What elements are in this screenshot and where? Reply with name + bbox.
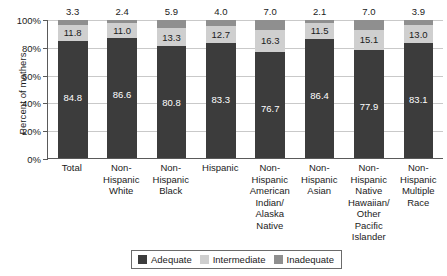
x-axis-label-4: Hispanic [196, 162, 246, 243]
y-axis-tick-label: 100% [17, 15, 41, 26]
x-axis-labels: TotalNon- Hispanic WhiteNon- Hispanic Bl… [47, 162, 443, 243]
segment-intermediate-value: 13.3 [162, 33, 181, 43]
segment-adequate: 80.8 [157, 46, 187, 158]
segment-adequate-value: 80.8 [162, 98, 181, 108]
legend-item[interactable]: Adequate [138, 254, 192, 265]
y-axis-tick-label: 60% [22, 70, 41, 81]
bar-slot: 13.083.13.9 [394, 20, 443, 158]
bar-group: 11.884.83.311.086.62.413.380.85.912.783.… [48, 20, 443, 158]
segment-intermediate: 16.3 [255, 30, 285, 52]
x-axis-label-5: Non- Hispanic American Indian/ Alaska Na… [245, 162, 295, 243]
segment-inadequate [157, 20, 187, 28]
chart-legend: AdequateIntermediateInadequate [131, 250, 342, 269]
segment-intermediate: 11.8 [58, 25, 88, 41]
x-axis-label-7: Non- Hispanic Native Hawaiian/ Other Pac… [344, 162, 394, 243]
stacked-bar[interactable]: 16.376.77.0 [255, 20, 285, 158]
segment-intermediate: 11.0 [107, 23, 137, 38]
segment-inadequate-value: 7.0 [354, 6, 384, 17]
segment-intermediate: 15.1 [354, 30, 384, 51]
legend-item[interactable]: Inadequate [274, 254, 335, 265]
legend-label: Adequate [151, 254, 192, 265]
bar-slot: 11.884.83.3 [48, 20, 97, 158]
x-axis-label-1: Total [47, 162, 97, 243]
segment-inadequate-value: 4.0 [206, 6, 236, 17]
y-axis-tick-label: 40% [22, 98, 41, 109]
legend-label: Inadequate [287, 254, 335, 265]
segment-inadequate-value: 3.3 [58, 6, 88, 17]
segment-inadequate [255, 20, 285, 30]
segment-inadequate-value: 3.9 [404, 6, 434, 17]
segment-adequate-value: 76.7 [261, 104, 280, 114]
segment-adequate: 84.8 [58, 41, 88, 158]
segment-intermediate-value: 13.0 [409, 30, 428, 40]
legend-swatch-icon [138, 255, 147, 264]
bar-slot: 15.177.97.0 [344, 20, 393, 158]
segment-adequate: 83.3 [206, 43, 236, 158]
stacked-bar[interactable]: 15.177.97.0 [354, 20, 384, 158]
bar-slot: 13.380.85.9 [147, 20, 196, 158]
segment-inadequate-value: 2.1 [305, 6, 335, 17]
y-axis-tick [43, 159, 48, 160]
stacked-bar[interactable]: 11.884.83.3 [58, 20, 88, 158]
y-axis-tick-label: 80% [22, 42, 41, 53]
segment-adequate-value: 83.3 [212, 95, 231, 105]
segment-adequate-value: 86.6 [113, 90, 132, 100]
segment-adequate: 76.7 [255, 52, 285, 158]
legend-swatch-icon [200, 255, 209, 264]
segment-intermediate-value: 11.0 [113, 26, 131, 36]
segment-inadequate-value: 7.0 [255, 6, 285, 17]
legend-label: Intermediate [213, 254, 266, 265]
segment-adequate-value: 77.9 [360, 102, 379, 112]
stacked-bar[interactable]: 13.380.85.9 [157, 20, 187, 158]
segment-intermediate-value: 15.1 [360, 35, 379, 45]
segment-intermediate-value: 16.3 [261, 36, 280, 46]
x-axis-label-8: Non- Hispanic Multiple Race [394, 162, 444, 243]
segment-inadequate [354, 20, 384, 30]
segment-adequate-value: 83.1 [409, 95, 428, 105]
segment-intermediate: 13.3 [157, 28, 187, 46]
legend-swatch-icon [274, 255, 283, 264]
segment-intermediate-value: 11.8 [64, 28, 82, 38]
stacked-bar[interactable]: 13.083.13.9 [404, 20, 434, 158]
stacked-bar-chart: Percent of mothers 0%20%40%60%80%100% 11… [0, 0, 447, 276]
segment-adequate: 86.6 [107, 38, 137, 158]
segment-adequate: 77.9 [354, 50, 384, 158]
segment-inadequate-value: 5.9 [157, 6, 187, 17]
segment-intermediate-value: 11.5 [311, 26, 329, 36]
stacked-bar[interactable]: 11.586.42.1 [305, 20, 335, 158]
segment-intermediate: 13.0 [404, 25, 434, 43]
stacked-bar[interactable]: 11.086.62.4 [107, 20, 137, 158]
bar-slot: 12.783.34.0 [196, 20, 245, 158]
x-axis-label-6: Non- Hispanic Asian [295, 162, 345, 243]
segment-adequate-value: 86.4 [310, 91, 329, 101]
segment-inadequate-value: 2.4 [107, 6, 137, 17]
plot-area: 0%20%40%60%80%100% 11.884.83.311.086.62.… [47, 20, 443, 159]
bar-slot: 11.086.62.4 [97, 20, 146, 158]
stacked-bar[interactable]: 12.783.34.0 [206, 20, 236, 158]
y-axis-tick-label: 0% [27, 154, 41, 165]
segment-adequate: 86.4 [305, 39, 335, 158]
bar-slot: 11.586.42.1 [295, 20, 344, 158]
segment-intermediate-value: 12.7 [212, 30, 231, 40]
bar-slot: 16.376.77.0 [246, 20, 295, 158]
x-axis-label-3: Non- Hispanic Black [146, 162, 196, 243]
y-axis-tick-label: 20% [22, 126, 41, 137]
legend-item[interactable]: Intermediate [200, 254, 266, 265]
segment-intermediate: 11.5 [305, 23, 335, 39]
x-axis-label-2: Non- Hispanic White [97, 162, 147, 243]
segment-adequate-value: 84.8 [63, 93, 82, 103]
segment-adequate: 83.1 [404, 43, 434, 158]
segment-intermediate: 12.7 [206, 26, 236, 44]
